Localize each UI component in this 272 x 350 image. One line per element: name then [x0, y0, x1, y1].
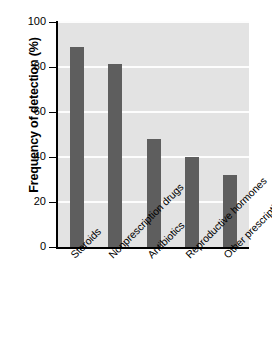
- y-tick-100: [49, 22, 56, 24]
- bar-steroids: [70, 47, 84, 247]
- y-tick-label-40: 40: [6, 151, 46, 162]
- y-axis-line: [56, 21, 58, 248]
- y-tick-40: [49, 157, 56, 159]
- y-tick-60: [49, 112, 56, 114]
- y-tick-label-0: 0: [6, 241, 46, 252]
- bar-antibiotics: [147, 139, 161, 247]
- bar-nonprescription-drugs: [108, 64, 122, 247]
- y-tick-0: [49, 247, 56, 249]
- y-tick-80: [49, 67, 56, 69]
- bar-chart-figure: Frequency of detection (%) 020406080100 …: [0, 0, 272, 350]
- gridline-80: [58, 66, 249, 68]
- gridline-100: [58, 21, 249, 23]
- gridline-60: [58, 111, 249, 113]
- y-tick-20: [49, 202, 56, 204]
- y-tick-label-100: 100: [6, 16, 46, 27]
- bar-reproductive-hormones: [185, 157, 199, 247]
- y-tick-label-20: 20: [6, 196, 46, 207]
- y-tick-label-80: 80: [6, 61, 46, 72]
- y-tick-label-60: 60: [6, 106, 46, 117]
